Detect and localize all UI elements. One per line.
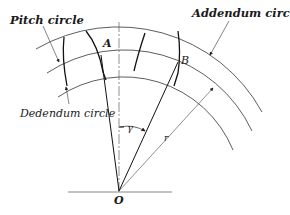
- point-a-label: A: [102, 37, 112, 50]
- addendum-circle-leader: [210, 21, 229, 55]
- radius-r-label: r: [164, 133, 169, 143]
- dedendum-circle-label: Dedendum circle: [19, 107, 116, 120]
- pitch-circle-label: Pitch circle: [9, 13, 84, 27]
- addendum-circle-arc: [36, 27, 262, 112]
- tooth-right-profile-left: [134, 33, 145, 71]
- tooth-right-profile-right: [174, 31, 180, 86]
- angle-gamma-label: γ: [127, 122, 133, 133]
- gear-diagram: Pitch circle Addendum circle Dedendum ci…: [0, 0, 290, 215]
- addendum-circle-label: Addendum circle: [191, 6, 290, 20]
- point-b-label: B: [180, 54, 189, 67]
- tooth-left-profile-left: [63, 37, 67, 86]
- line-o-to-a: [101, 55, 119, 191]
- dedendum-circle-leader: [66, 87, 69, 104]
- center-o-label: O: [114, 194, 124, 207]
